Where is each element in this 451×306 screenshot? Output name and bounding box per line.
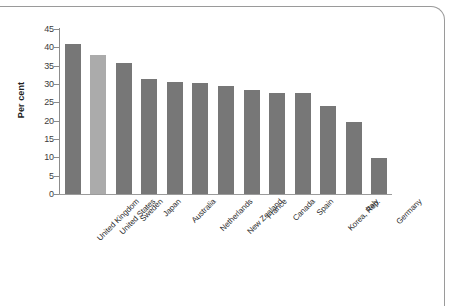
x-axis-label-canada: Canada [291, 197, 317, 223]
x-axis-label-australia: Australia [190, 197, 218, 225]
x-axis-label-japan: Japan [162, 197, 183, 218]
x-axis-label-germany: Germany [395, 197, 424, 226]
x-axis-label-spain: Spain [314, 197, 334, 217]
